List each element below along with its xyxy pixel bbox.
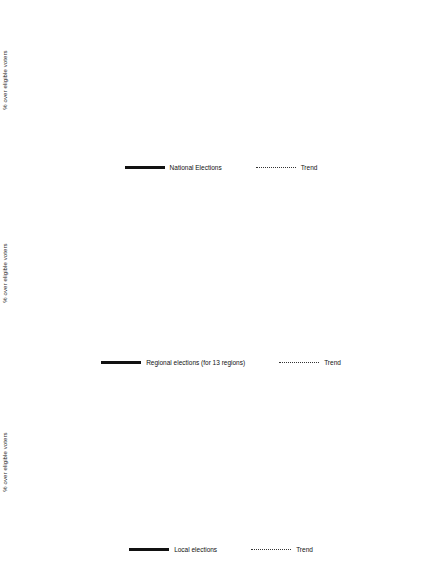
chart-svg-regional [0, 190, 442, 355]
chart-svg-local [0, 382, 442, 542]
legend-label-series: National Elections [170, 164, 222, 171]
legend-item-trend: Trend [251, 546, 313, 553]
legend-item-series: National Elections [125, 164, 222, 171]
plot-area-national [0, 0, 442, 160]
legend-solid-line-icon [129, 548, 169, 551]
legend-item-series: Regional elections (for 13 regions) [101, 359, 245, 366]
legend-label-series: Local elections [174, 546, 217, 553]
legend-label-trend: Trend [296, 546, 313, 553]
legend-national: National Elections Trend [0, 164, 442, 171]
legend-label-series: Regional elections (for 13 regions) [146, 359, 245, 366]
legend-item-trend: Trend [279, 359, 341, 366]
plot-area-local [0, 382, 442, 542]
legend-label-trend: Trend [324, 359, 341, 366]
legend-solid-line-icon [125, 166, 165, 169]
chart-local-elections: % over eligible voters Local elections T… [0, 382, 442, 567]
chart-national-elections: % over eligible voters National Election… [0, 0, 442, 190]
legend-regional: Regional elections (for 13 regions) Tren… [0, 359, 442, 366]
legend-local: Local elections Trend [0, 546, 442, 553]
plot-area-regional [0, 190, 442, 355]
chart-svg-national [0, 0, 442, 160]
legend-dotted-line-icon [251, 549, 291, 550]
legend-label-trend: Trend [301, 164, 318, 171]
chart-regional-elections: % over eligible voters Regional election… [0, 190, 442, 382]
legend-item-trend: Trend [256, 164, 318, 171]
legend-solid-line-icon [101, 361, 141, 364]
legend-item-series: Local elections [129, 546, 217, 553]
legend-dotted-line-icon [279, 362, 319, 363]
legend-dotted-line-icon [256, 167, 296, 168]
